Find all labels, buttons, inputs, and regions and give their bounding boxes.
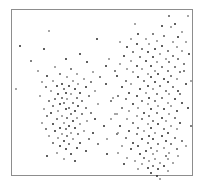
plot-frame <box>11 9 193 176</box>
scatter-point <box>159 178 161 180</box>
scatter-plot-figure <box>0 0 203 188</box>
